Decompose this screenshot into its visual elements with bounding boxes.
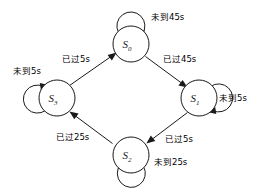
self-loop-s2-label: 未到25s [154, 158, 187, 167]
self-loop-s1-label: 未到5s [219, 94, 247, 103]
state-diagram: S0 S1 S2 S3 未到45s 未到5s 未到25s 未到5s 已过5s 已… [0, 0, 261, 194]
self-loop-s3-label: 未到5s [13, 67, 41, 76]
transition-s3-to-s0-arrowhead [108, 53, 117, 61]
transition-s2-to-s3-arrowhead [69, 111, 78, 119]
transition-s0-to-s1-label: 已过45s [163, 55, 196, 64]
transition-s2-to-s3-label: 已过25s [56, 133, 89, 142]
self-loop-s0-label: 未到45s [151, 13, 184, 22]
transition-s1-to-s2-arrowhead [146, 135, 155, 143]
transition-s1-to-s2-label: 已过5s [165, 135, 193, 144]
transition-s3-to-s0-label: 已过5s [62, 55, 90, 64]
